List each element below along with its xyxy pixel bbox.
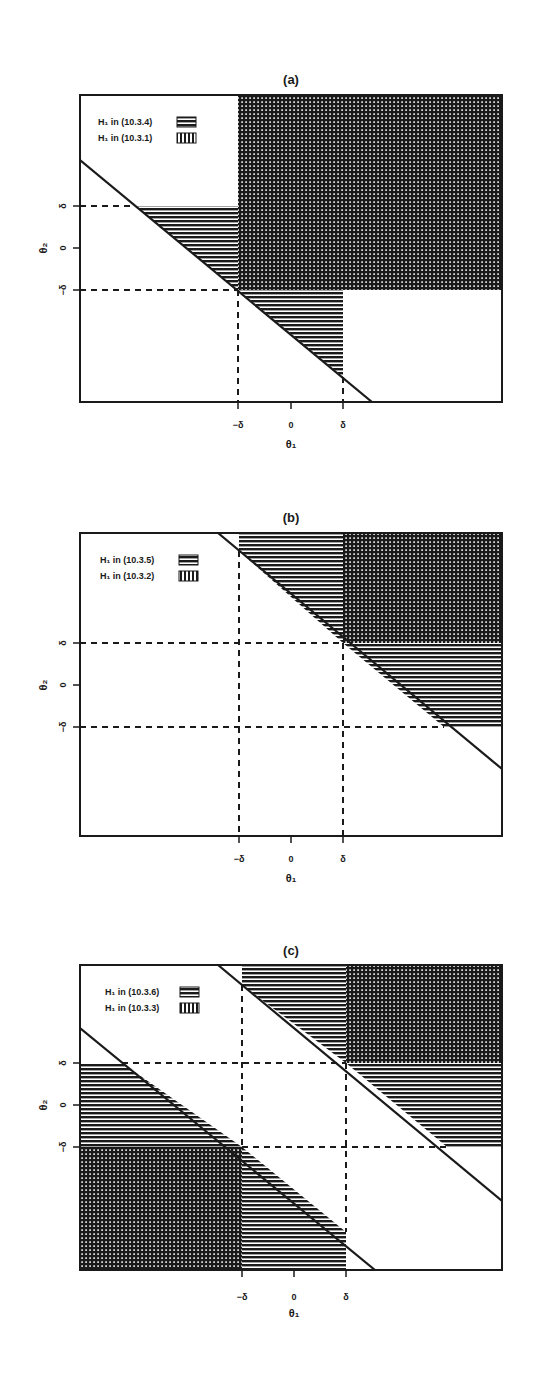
x-tick-label: 0 <box>291 1292 296 1302</box>
y-axis: δ 0 −δ θ₂ <box>37 640 80 733</box>
x-axis-label: θ₁ <box>286 872 297 884</box>
legend-swatch-horizontal <box>179 555 198 565</box>
region-horizontal-hatch <box>242 1147 346 1270</box>
x-axis-label: θ₁ <box>289 1307 300 1319</box>
x-tick-label: 0 <box>288 420 293 430</box>
x-tick-label: δ <box>340 420 346 430</box>
panel-c-title: (c) <box>283 943 299 958</box>
y-axis: δ 0 −δ θ₂ <box>37 1060 80 1153</box>
region-crosshatch <box>346 965 502 1063</box>
legend-label: H₁ in (10.3.2) <box>100 571 154 581</box>
x-axis: −δ 0 δ θ₁ <box>233 402 347 450</box>
panel-c: (c) H₁ in (10.3.6) H₁ <box>37 943 502 1319</box>
panel-a-title: (a) <box>283 72 299 87</box>
y-tick-label: 0 <box>58 1102 68 1107</box>
y-axis: δ 0 −δ θ₂ <box>37 203 80 296</box>
region-horizontal-hatch <box>239 533 343 643</box>
panel-b: (b) H₁ in (10.3.5) H₁ in (10.3.2) <box>37 510 502 884</box>
figure-canvas: (a) H₁ in (10.3.4) H₁ in (10.3.1) <box>0 0 541 1376</box>
region-horizontal-hatch <box>80 1063 242 1147</box>
y-tick-label: −δ <box>58 721 68 732</box>
region-crosshatch <box>343 533 502 643</box>
region-horizontal-hatch <box>242 965 346 1063</box>
legend-label: H₁ in (10.3.1) <box>98 133 152 143</box>
y-tick-label: −δ <box>58 284 68 295</box>
legend-label: H₁ in (10.3.3) <box>105 1003 159 1013</box>
x-tick-label: −δ <box>233 420 244 430</box>
legend-label: H₁ in (10.3.5) <box>100 555 154 565</box>
x-tick-label: −δ <box>234 854 245 864</box>
y-tick-label: −δ <box>58 1141 68 1152</box>
y-tick-label: 0 <box>58 682 68 687</box>
legend: H₁ in (10.3.4) H₁ in (10.3.1) <box>98 117 196 143</box>
legend-swatch-vertical <box>177 133 196 143</box>
x-tick-label: −δ <box>237 1292 248 1302</box>
legend-swatch-horizontal <box>177 117 196 127</box>
panel-b-title: (b) <box>283 510 300 525</box>
legend-label: H₁ in (10.3.4) <box>98 117 152 127</box>
region-crosshatch <box>238 95 502 290</box>
x-tick-label: δ <box>340 854 346 864</box>
legend: H₁ in (10.3.5) H₁ in (10.3.2) <box>100 555 198 581</box>
panel-a: (a) H₁ in (10.3.4) H₁ in (10.3.1) <box>37 72 502 450</box>
legend-label: H₁ in (10.3.6) <box>105 987 159 997</box>
y-axis-label: θ₂ <box>37 679 49 690</box>
legend-swatch-horizontal <box>180 987 199 997</box>
legend-swatch-vertical <box>180 1003 199 1013</box>
x-tick-label: δ <box>343 1292 349 1302</box>
region-crosshatch <box>80 1147 242 1270</box>
x-axis: −δ 0 δ θ₁ <box>234 836 347 884</box>
y-tick-label: 0 <box>58 245 68 250</box>
x-tick-label: 0 <box>288 854 293 864</box>
region-horizontal-hatch <box>346 1063 502 1147</box>
y-tick-label: δ <box>58 640 68 646</box>
legend: H₁ in (10.3.6) H₁ in (10.3.3) <box>105 987 199 1013</box>
y-tick-label: δ <box>58 1060 68 1066</box>
y-tick-label: δ <box>58 203 68 209</box>
y-axis-label: θ₂ <box>37 242 49 253</box>
legend-swatch-vertical <box>179 571 198 581</box>
y-axis-label: θ₂ <box>37 1099 49 1110</box>
x-axis-label: θ₁ <box>286 438 297 450</box>
x-axis: −δ 0 δ θ₁ <box>237 1270 350 1319</box>
